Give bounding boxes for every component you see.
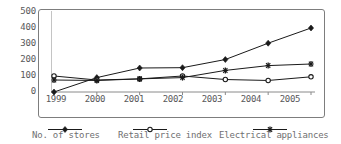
legend-label-electrical-appliances: Electrical appliances	[219, 130, 329, 140]
y-axis: 500 400 300 200 100 0	[2, 0, 36, 100]
y-axis-tick-300: 300	[4, 39, 36, 48]
x-axis-tick-2004: 2004	[234, 94, 268, 104]
x-axis-tick-2002: 2002	[156, 94, 190, 104]
x-axis-tick-1999: 1999	[39, 94, 73, 104]
x-axis-tick-2000: 2000	[78, 94, 112, 104]
axis-lines	[51, 11, 315, 95]
x-axis-tick-2003: 2003	[195, 94, 229, 104]
y-axis-tick-200: 200	[4, 55, 36, 64]
legend-label-no-of-stores: No. of stores	[32, 130, 100, 140]
x-axis-tick-2001: 2001	[117, 94, 151, 104]
y-axis-tick-500: 500	[4, 7, 36, 16]
legend-label-retail-price-index: Retail price index	[118, 130, 212, 140]
plot-svg	[51, 11, 317, 95]
series-no-of-stores	[51, 25, 313, 95]
x-axis-tick-2005: 2005	[273, 94, 307, 104]
x-axis: 1999 2000 2001 2002 2003 2004 2005	[51, 94, 323, 106]
y-axis-tick-400: 400	[4, 23, 36, 32]
y-axis-tick-0: 0	[4, 87, 36, 96]
chart-legend: No. of stores Retail price index Electri…	[0, 120, 341, 142]
y-axis-tick-100: 100	[4, 71, 36, 80]
plot-area	[51, 11, 317, 92]
chart-figure: 500 400 300 200 100 0 1999 2000 2001 200…	[0, 0, 341, 144]
